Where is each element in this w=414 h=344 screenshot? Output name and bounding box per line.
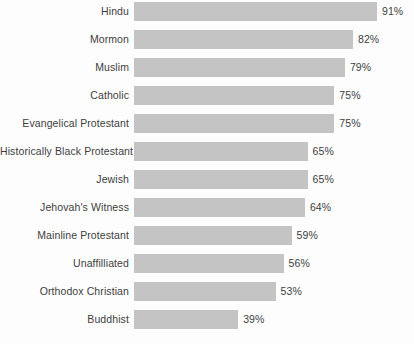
bar-category-label: Mormon (0, 30, 134, 49)
bar (134, 198, 305, 217)
bar-value-label: 91% (377, 2, 403, 21)
bar-chart-row: Evangelical Protestant75% (0, 114, 414, 133)
bar (134, 310, 238, 329)
bar-value-label: 79% (345, 58, 371, 77)
bar-category-label: Jehovah's Witness (0, 198, 134, 217)
bar-value-label: 64% (305, 198, 331, 217)
bar-track: 64% (134, 198, 414, 217)
bar (134, 30, 353, 49)
bar-track: 79% (134, 58, 414, 77)
bar-category-label: Historically Black Protestant (0, 142, 134, 161)
bar-track: 82% (134, 30, 414, 49)
bar-chart-row: Catholic75% (0, 86, 414, 105)
bar-chart-row: Historically Black Protestant65% (0, 142, 414, 161)
bar-track: 65% (134, 170, 414, 189)
bar-category-label: Jewish (0, 170, 134, 189)
bar-track: 75% (134, 114, 414, 133)
bar-chart-row: Jewish65% (0, 170, 414, 189)
bar-category-label: Catholic (0, 86, 134, 105)
bar-category-label: Evangelical Protestant (0, 114, 134, 133)
bar (134, 170, 308, 189)
bar-track: 75% (134, 86, 414, 105)
bar-track: 56% (134, 254, 414, 273)
bar-value-label: 75% (334, 86, 360, 105)
bar-chart-row: Orthodox Christian53% (0, 282, 414, 301)
bar-chart-rows: Hindu91%Mormon82%Muslim79%Catholic75%Eva… (0, 2, 414, 338)
bar-track: 39% (134, 310, 414, 329)
bar-category-label: Mainline Protestant (0, 226, 134, 245)
bar-track: 59% (134, 226, 414, 245)
bar-chart-row: Mainline Protestant59% (0, 226, 414, 245)
bar-chart-row: Jehovah's Witness64% (0, 198, 414, 217)
bar-value-label: 39% (238, 310, 264, 329)
bar-chart: Hindu91%Mormon82%Muslim79%Catholic75%Eva… (0, 0, 414, 344)
bar (134, 226, 292, 245)
bar-value-label: 59% (292, 226, 318, 245)
bar-value-label: 65% (308, 170, 334, 189)
bar (134, 114, 334, 133)
bar (134, 86, 334, 105)
bar-chart-row: Hindu91% (0, 2, 414, 21)
bar-value-label: 82% (353, 30, 379, 49)
bar (134, 2, 377, 21)
bar-track: 91% (134, 2, 414, 21)
bar-value-label: 53% (276, 282, 302, 301)
bar (134, 282, 276, 301)
bar-chart-row: Muslim79% (0, 58, 414, 77)
bar (134, 142, 308, 161)
bar (134, 58, 345, 77)
bar-value-label: 56% (284, 254, 310, 273)
bar (134, 254, 284, 273)
bar-category-label: Hindu (0, 2, 134, 21)
bar-category-label: Buddhist (0, 310, 134, 329)
bar-value-label: 65% (308, 142, 334, 161)
bar-value-label: 75% (334, 114, 360, 133)
bar-chart-row: Mormon82% (0, 30, 414, 49)
bar-track: 53% (134, 282, 414, 301)
bar-chart-row: Unaffilliated56% (0, 254, 414, 273)
bar-category-label: Muslim (0, 58, 134, 77)
bar-track: 65% (134, 142, 414, 161)
bar-category-label: Orthodox Christian (0, 282, 134, 301)
bar-chart-row: Buddhist39% (0, 310, 414, 329)
bar-category-label: Unaffilliated (0, 254, 134, 273)
